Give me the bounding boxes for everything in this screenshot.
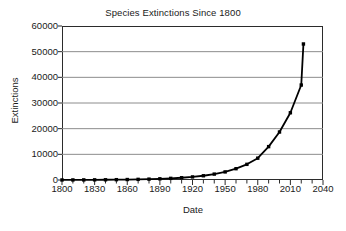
plot-canvas	[62, 26, 323, 180]
data-point-marker	[267, 145, 270, 148]
y-tick-label: 60000	[0, 21, 58, 31]
y-tick-label: 40000	[0, 72, 58, 82]
data-point-marker	[93, 178, 96, 181]
data-point-marker	[136, 178, 139, 181]
data-point-marker	[202, 174, 205, 177]
data-point-marker	[104, 178, 107, 181]
chart-figure: Species Extinctions Since 1800 Extinctio…	[0, 0, 346, 231]
data-point-marker	[278, 130, 281, 133]
chart-title: Species Extinctions Since 1800	[0, 7, 346, 18]
data-point-marker	[300, 83, 303, 86]
data-point-marker	[302, 42, 305, 45]
data-point-marker	[71, 178, 74, 181]
data-point-marker	[169, 177, 172, 180]
x-axis-label: Date	[62, 204, 324, 215]
data-point-marker	[213, 172, 216, 175]
y-tick-label: 10000	[0, 149, 58, 159]
data-point-marker	[256, 156, 259, 159]
data-point-marker	[234, 167, 237, 170]
y-tick-label: 50000	[0, 47, 58, 57]
data-point-marker	[180, 176, 183, 179]
data-point-marker	[60, 178, 63, 181]
y-tick-label: 30000	[0, 98, 58, 108]
data-point-marker	[147, 177, 150, 180]
x-tick-label: 2040	[301, 184, 345, 194]
data-point-marker	[126, 178, 129, 181]
data-line	[62, 44, 303, 180]
data-point-marker	[115, 178, 118, 181]
data-point-marker	[245, 163, 248, 166]
data-point-marker	[289, 111, 292, 114]
data-point-marker	[82, 178, 85, 181]
data-point-marker	[191, 175, 194, 178]
y-tick-label: 20000	[0, 124, 58, 134]
data-point-marker	[223, 170, 226, 173]
data-point-marker	[158, 177, 161, 180]
